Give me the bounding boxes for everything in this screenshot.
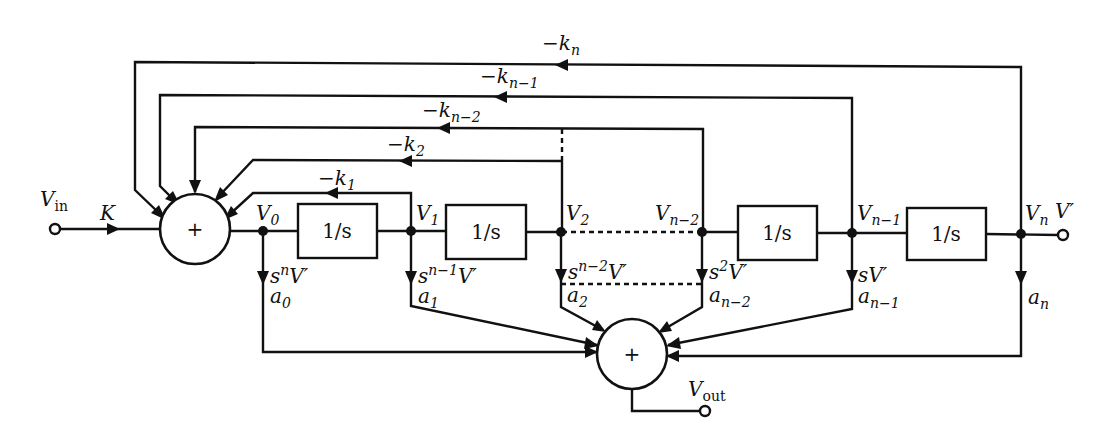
coef-label-an1: an−1 bbox=[858, 284, 900, 311]
tap-label-n2: s2V′ bbox=[709, 258, 748, 284]
coef-label-a1: a1 bbox=[418, 284, 439, 311]
tap-label-2: sn−2V′ bbox=[568, 258, 627, 284]
node-dot bbox=[258, 226, 268, 236]
node-label-v2: V2 bbox=[566, 201, 589, 228]
output-terminal-vprime bbox=[1058, 230, 1068, 240]
coef-label-a2: a2 bbox=[567, 283, 588, 310]
arrow-icon bbox=[437, 122, 450, 134]
arrow-icon bbox=[1015, 271, 1027, 285]
arrow-icon bbox=[494, 91, 507, 103]
arrow-icon bbox=[666, 337, 681, 349]
node-dot bbox=[847, 228, 857, 238]
node-label-v1: V1 bbox=[416, 201, 439, 228]
feedback-label-k2: −k2 bbox=[387, 132, 425, 159]
tap-an2 bbox=[661, 232, 702, 331]
plus-sign: + bbox=[187, 217, 204, 241]
integrator-label: 1/s bbox=[471, 220, 501, 244]
node-dot bbox=[1016, 229, 1026, 239]
arrow-icon bbox=[399, 155, 412, 167]
coef-label-an2: an−2 bbox=[709, 283, 751, 310]
state-variable-block-diagram: 1/s 1/s 1/s 1/s + + Vin K V0 V1 V2 Vn−2 … bbox=[0, 0, 1115, 442]
arrow-icon bbox=[555, 59, 568, 71]
coef-label-an: an bbox=[1028, 285, 1049, 312]
arrow-icon bbox=[592, 320, 606, 332]
node-label-vn2: Vn−2 bbox=[655, 201, 699, 228]
node-label-vn1: Vn−1 bbox=[857, 201, 901, 228]
arrow-icon bbox=[257, 271, 269, 285]
gain-label: K bbox=[99, 201, 116, 225]
coef-label-a0: a0 bbox=[270, 284, 291, 311]
integrator-label: 1/s bbox=[762, 221, 792, 245]
node-dot bbox=[406, 226, 416, 236]
arrow-icon bbox=[189, 180, 201, 194]
arrow-icon bbox=[696, 269, 708, 283]
arrow-icon bbox=[405, 271, 417, 285]
node-label-vprime: V′ bbox=[1055, 199, 1074, 223]
feedback-label-kn1: −kn−1 bbox=[480, 64, 539, 91]
integrator-label: 1/s bbox=[322, 219, 352, 243]
feedback-label-k1: −k1 bbox=[318, 166, 356, 193]
node-dot bbox=[556, 227, 566, 237]
arrow-icon bbox=[846, 270, 858, 284]
feedback-label-kn2: −kn−2 bbox=[422, 98, 481, 125]
node-label-v0: V0 bbox=[256, 201, 279, 228]
arrow-icon bbox=[555, 269, 567, 283]
plus-sign: + bbox=[624, 342, 641, 366]
input-terminal bbox=[50, 224, 60, 234]
integrator-label: 1/s bbox=[931, 222, 961, 246]
output-label: Vout bbox=[688, 377, 726, 404]
output-terminal-vout bbox=[700, 406, 710, 416]
node-label-vn: Vn bbox=[1025, 201, 1048, 228]
input-label: Vin bbox=[40, 187, 68, 214]
node-dot bbox=[697, 227, 707, 237]
feedback-label-kn: −kn bbox=[542, 31, 580, 58]
